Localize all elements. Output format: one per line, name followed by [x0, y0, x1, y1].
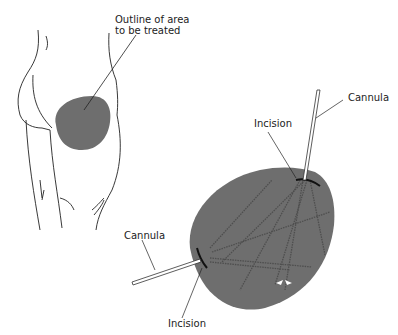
- cannula-top: [303, 90, 320, 180]
- liposuction-diagram: [0, 0, 398, 335]
- cannula-top-label: Cannula: [348, 92, 389, 103]
- incision-top-label: Incision: [254, 118, 292, 129]
- outline-leader-line: [84, 35, 136, 110]
- cannula-left: [132, 259, 201, 285]
- outline-label-line1: Outline of area: [115, 14, 189, 25]
- outline-label: Outline of area to be treated: [115, 14, 189, 36]
- incision-bottom-label: Incision: [168, 318, 206, 329]
- treated-area-small: [55, 96, 110, 150]
- cannula-left-label: Cannula: [124, 230, 165, 241]
- outline-label-line2: to be treated: [115, 25, 189, 36]
- treated-area-large: [190, 168, 335, 310]
